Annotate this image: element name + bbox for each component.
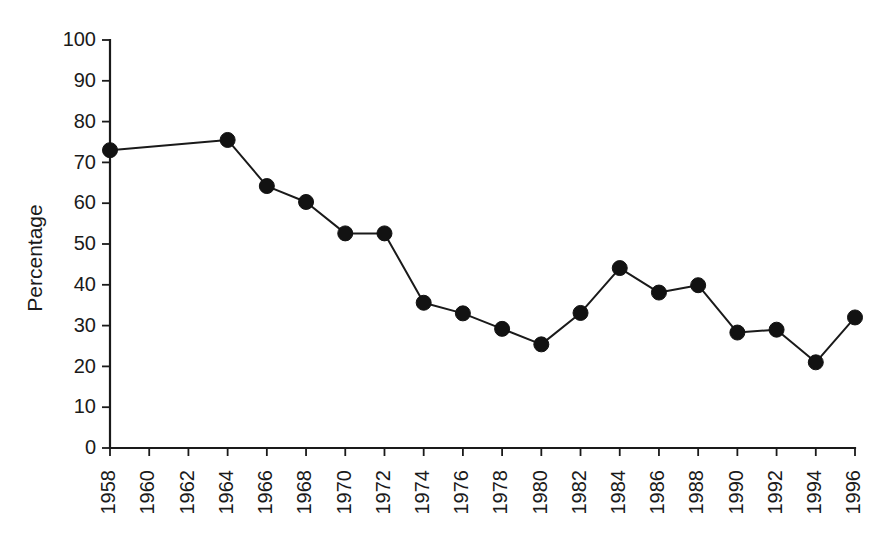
y-tick-label: 90 (74, 69, 96, 91)
x-tick-label: 1990 (725, 470, 747, 515)
x-tick-label: 1994 (803, 470, 825, 515)
data-point-marker (220, 132, 235, 147)
x-tick-label: 1980 (529, 470, 551, 515)
x-tick-label: 1976 (450, 470, 472, 515)
data-point-marker (612, 261, 627, 276)
x-tick-label: 1968 (293, 470, 315, 515)
data-point-marker (299, 194, 314, 209)
data-point-marker (769, 322, 784, 337)
x-axis: 1958196019621964196619681970197219741976… (97, 448, 864, 515)
data-series (103, 132, 863, 369)
x-tick-label: 1982 (568, 470, 590, 515)
data-point-marker (573, 305, 588, 320)
y-tick-label: 70 (74, 151, 96, 173)
x-tick-label: 1958 (97, 470, 119, 515)
x-tick-label: 1964 (215, 470, 237, 515)
y-tick-label: 40 (74, 273, 96, 295)
data-point-marker (651, 285, 666, 300)
y-tick-label: 20 (74, 355, 96, 377)
data-point-marker (377, 226, 392, 241)
data-point-marker (495, 321, 510, 336)
percentage-line-chart: 0102030405060708090100 19581960196219641… (0, 0, 890, 549)
y-tick-label: 0 (85, 436, 96, 458)
x-tick-label: 1966 (254, 470, 276, 515)
x-tick-label: 1996 (842, 470, 864, 515)
x-tick-label: 1974 (411, 470, 433, 515)
x-tick-label: 1962 (176, 470, 198, 515)
data-point-marker (808, 355, 823, 370)
data-point-marker (455, 306, 470, 321)
x-tick-label: 1984 (607, 470, 629, 515)
x-tick-label: 1972 (372, 470, 394, 515)
data-point-marker (691, 278, 706, 293)
x-tick-label: 1960 (136, 470, 158, 515)
y-tick-label: 10 (74, 395, 96, 417)
x-tick-label: 1992 (764, 470, 786, 515)
y-tick-label: 30 (74, 314, 96, 336)
x-tick-label: 1978 (489, 470, 511, 515)
y-tick-label: 50 (74, 232, 96, 254)
y-axis-title: Percentage (23, 204, 46, 311)
data-point-marker (848, 310, 863, 325)
data-point-marker (338, 226, 353, 241)
y-tick-label: 80 (74, 110, 96, 132)
x-tick-label: 1986 (646, 470, 668, 515)
chart-container: 0102030405060708090100 19581960196219641… (0, 0, 890, 549)
y-axis: 0102030405060708090100 (63, 28, 110, 458)
y-tick-label: 60 (74, 191, 96, 213)
data-point-marker (730, 325, 745, 340)
data-point-marker (416, 295, 431, 310)
x-tick-label: 1988 (685, 470, 707, 515)
data-point-marker (534, 337, 549, 352)
x-tick-label: 1970 (333, 470, 355, 515)
y-tick-label: 100 (63, 28, 96, 50)
data-point-marker (103, 143, 118, 158)
data-point-marker (259, 179, 274, 194)
